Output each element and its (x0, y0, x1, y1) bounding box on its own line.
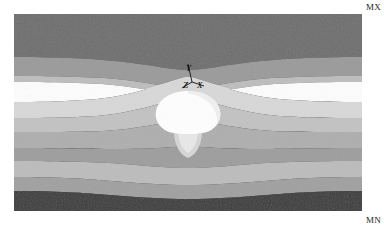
max-marker-label: MX (366, 2, 381, 12)
triad-label-x: X (197, 81, 203, 90)
triad-label-y: Y (186, 64, 191, 73)
contour-plot-canvas (14, 14, 362, 211)
contour-plot-figure: . . . . . . . . . . (0, 0, 384, 230)
top-text-remnant: . . . . . . . . . . (52, 0, 312, 5)
triad-label-z: Z (183, 81, 188, 90)
min-marker-label: MN (366, 215, 381, 225)
contour-bands-svg (14, 14, 362, 211)
